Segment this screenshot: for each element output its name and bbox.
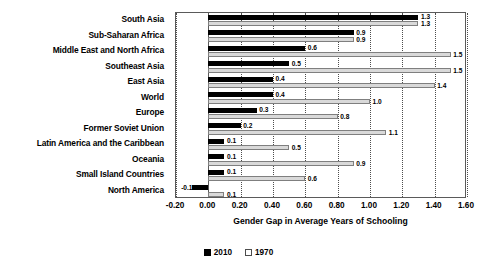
bar-value-label: 1.0 <box>373 98 382 105</box>
bar-value-label: 0.1 <box>227 191 236 198</box>
bar-value-label: 1.5 <box>453 67 462 74</box>
bar-2010 <box>208 170 224 175</box>
category-label: Oceania <box>0 152 168 168</box>
category-label: East Asia <box>0 74 168 90</box>
bar-row: 0.51.5 <box>176 60 465 76</box>
plot-area: 1.31.30.90.90.61.50.51.50.41.40.41.00.30… <box>175 12 466 198</box>
x-axis-title: Gender Gap in Average Years of Schooling <box>175 216 466 226</box>
x-tick-label: 0.60 <box>296 201 312 210</box>
bar-value-label: 1.4 <box>437 82 446 89</box>
bar-row: 0.90.9 <box>176 29 465 45</box>
bar-1970 <box>208 52 451 57</box>
bar-row: 0.30.8 <box>176 106 465 122</box>
bar-value-label: 0.3 <box>259 106 268 113</box>
bar-value-label: 0.8 <box>340 113 349 120</box>
bar-1970 <box>208 99 370 104</box>
bar-1970 <box>208 114 337 119</box>
category-label: Middle East and North Africa <box>0 43 168 59</box>
bar-rows: 1.31.30.90.90.61.50.51.50.41.40.41.00.30… <box>176 13 465 197</box>
bar-2010 <box>208 15 418 20</box>
category-label: Small Island Countries <box>0 167 168 183</box>
category-label: World <box>0 90 168 106</box>
legend-item-1970[interactable]: 1970 <box>245 248 273 257</box>
x-tick-label: 0.40 <box>264 201 280 210</box>
bar-row: -0.10.1 <box>176 184 465 200</box>
outlined-white-square-icon <box>245 249 252 256</box>
bar-value-label: 0.4 <box>276 91 285 98</box>
category-label: South Asia <box>0 12 168 28</box>
bar-2010 <box>208 154 224 159</box>
bar-2010 <box>208 61 289 66</box>
bar-value-label: 0.1 <box>227 168 236 175</box>
bar-1970 <box>208 83 434 88</box>
category-label: Sub-Saharan Africa <box>0 28 168 44</box>
bar-value-label: -0.1 <box>181 184 192 191</box>
legend-item-2010[interactable]: 2010 <box>204 248 232 257</box>
legend-label: 1970 <box>255 248 273 257</box>
bar-2010 <box>208 123 240 128</box>
bar-value-label: 0.6 <box>308 44 317 51</box>
chart-legend: 20101970 <box>0 248 477 257</box>
bar-row: 0.10.9 <box>176 153 465 169</box>
x-tick-label: 1.60 <box>458 201 474 210</box>
bar-row: 0.21.1 <box>176 122 465 138</box>
bar-1970 <box>208 21 418 26</box>
x-tick-label: -0.20 <box>166 201 185 210</box>
bar-2010 <box>208 30 354 35</box>
x-axis-ticks: -0.200.000.200.400.600.801.001.201.401.6… <box>175 199 466 215</box>
bar-value-label: 0.1 <box>227 137 236 144</box>
gridline <box>467 13 468 197</box>
bar-2010 <box>208 46 305 51</box>
x-tick-label: 0.00 <box>199 201 215 210</box>
bar-value-label: 1.1 <box>389 129 398 136</box>
bar-1970 <box>208 192 224 197</box>
bar-value-label: 0.1 <box>227 153 236 160</box>
bar-1970 <box>208 161 354 166</box>
bar-value-label: 0.6 <box>308 175 317 182</box>
bar-value-label: 1.3 <box>421 20 430 27</box>
bar-1970 <box>208 145 289 150</box>
bar-value-label: 1.5 <box>453 51 462 58</box>
bar-2010 <box>208 139 224 144</box>
bar-value-label: 0.9 <box>356 36 365 43</box>
bar-2010 <box>208 77 273 82</box>
bar-value-label: 0.9 <box>356 160 365 167</box>
filled-black-square-icon <box>204 249 211 256</box>
bar-value-label: 0.5 <box>292 144 301 151</box>
category-axis-labels: South AsiaSub-Saharan AfricaMiddle East … <box>0 12 168 198</box>
bar-row: 1.31.3 <box>176 13 465 29</box>
x-tick-label: 0.20 <box>232 201 248 210</box>
x-tick-label: 1.40 <box>426 201 442 210</box>
category-label: Europe <box>0 105 168 121</box>
bar-1970 <box>208 130 386 135</box>
bar-row: 0.10.6 <box>176 168 465 184</box>
x-tick-label: 1.00 <box>361 201 377 210</box>
category-label: Southeast Asia <box>0 59 168 75</box>
category-label: Former Soviet Union <box>0 121 168 137</box>
legend-label: 2010 <box>214 248 232 257</box>
bar-value-label: 0.5 <box>292 60 301 67</box>
category-label: Latin America and the Caribbean <box>0 136 168 152</box>
bar-row: 0.61.5 <box>176 44 465 60</box>
bar-2010 <box>208 108 257 113</box>
bar-row: 0.41.4 <box>176 75 465 91</box>
bar-1970 <box>208 37 354 42</box>
bar-row: 0.10.5 <box>176 137 465 153</box>
bar-1970 <box>208 176 305 181</box>
bar-value-label: 0.4 <box>276 75 285 82</box>
category-label: North America <box>0 183 168 199</box>
bar-value-label: 0.2 <box>243 122 252 129</box>
x-tick-label: 0.80 <box>329 201 345 210</box>
bar-1970 <box>208 68 451 73</box>
bar-2010 <box>192 185 208 190</box>
bar-2010 <box>208 92 273 97</box>
bar-row: 0.41.0 <box>176 91 465 107</box>
x-tick-label: 1.20 <box>393 201 409 210</box>
chart-page: South AsiaSub-Saharan AfricaMiddle East … <box>0 0 477 267</box>
